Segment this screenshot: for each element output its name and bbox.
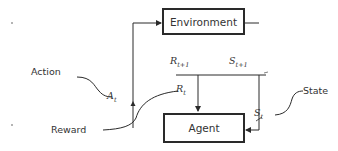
reward-annotation: Reward (51, 124, 86, 135)
state-annotation: State (303, 85, 328, 96)
agent-box: Agent (163, 113, 245, 143)
state-current-label: St (254, 107, 263, 121)
reward-current-label: Rt (176, 83, 186, 97)
agent-label: Agent (188, 122, 219, 134)
environment-box: Environment (162, 8, 245, 35)
state-callout-curve (275, 91, 303, 115)
dot-marker (11, 124, 13, 126)
action-arrow (131, 23, 162, 128)
environment-label: Environment (170, 16, 237, 28)
dot-marker (11, 22, 13, 24)
reward-next-label: Rt+1 (170, 55, 189, 69)
action-symbol-label: At (107, 90, 117, 104)
action-annotation: Action (31, 66, 61, 77)
state-next-label: St+1 (229, 55, 248, 69)
